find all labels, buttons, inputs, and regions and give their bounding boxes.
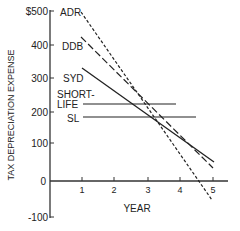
x-tick-3: 3	[145, 185, 150, 195]
y-tick-500: $500	[26, 6, 49, 17]
x-tick-2: 2	[111, 185, 116, 195]
label-ddb: DDB	[62, 41, 83, 52]
y-tick-100: 100	[31, 138, 48, 149]
label-adr: ADR	[60, 7, 81, 18]
label-syd: SYD	[63, 73, 84, 84]
y-tick-neg100: -100	[28, 212, 48, 223]
x-tick-labels: 1 2 3 4 5	[79, 185, 215, 195]
depreciation-chart: $500 400 300 200 100 0 -100 1 2 3 4 5 YE…	[0, 0, 240, 231]
x-axis-label: YEAR	[123, 203, 150, 214]
series-ddb	[81, 37, 213, 168]
y-axis-label: TAX DEPRECIATION EXPENSE	[6, 49, 16, 180]
x-tick-5: 5	[210, 185, 215, 195]
label-sl: SL	[67, 113, 80, 124]
x-tick-1: 1	[79, 185, 84, 195]
series-labels: ADR DDB SYD SHORT- LIFE SL	[57, 7, 95, 124]
series-adr	[81, 12, 212, 200]
y-tick-400: 400	[31, 40, 48, 51]
y-tick-200: 200	[31, 107, 48, 118]
x-tick-4: 4	[177, 185, 182, 195]
y-tick-0: 0	[40, 176, 46, 187]
label-life: LIFE	[57, 99, 78, 110]
y-tick-300: 300	[31, 73, 48, 84]
series-syd	[82, 68, 214, 162]
y-tick-labels: $500 400 300 200 100 0 -100	[26, 6, 49, 223]
